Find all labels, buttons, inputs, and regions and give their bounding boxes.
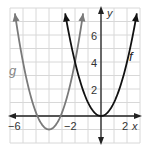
curve-arrows: [13, 13, 139, 21]
y-axis-down-arrow-icon: [98, 137, 104, 145]
arrowhead-icon: [63, 13, 70, 21]
arrowhead-icon: [132, 13, 139, 21]
x-tick-neg6: −6: [8, 120, 21, 132]
coordinate-plane: y x −6 −2 2 2 4 6 f g: [0, 0, 145, 148]
arrowhead-icon: [13, 13, 20, 21]
y-tick-6: 6: [91, 30, 97, 42]
y-axis-label: y: [106, 7, 114, 19]
y-tick-2: 2: [91, 84, 97, 96]
y-tick-4: 4: [91, 57, 97, 69]
y-axis-up-arrow-icon: [98, 6, 104, 14]
arrowhead-icon: [78, 13, 85, 21]
x-tick-neg2: −2: [64, 120, 77, 132]
curve-g-label: g: [9, 63, 17, 78]
x-axis-left-arrow-icon: [8, 113, 16, 119]
x-axis-right-arrow-icon: [134, 113, 142, 119]
x-axis-label: x: [131, 120, 138, 132]
x-tick-2: 2: [122, 120, 128, 132]
